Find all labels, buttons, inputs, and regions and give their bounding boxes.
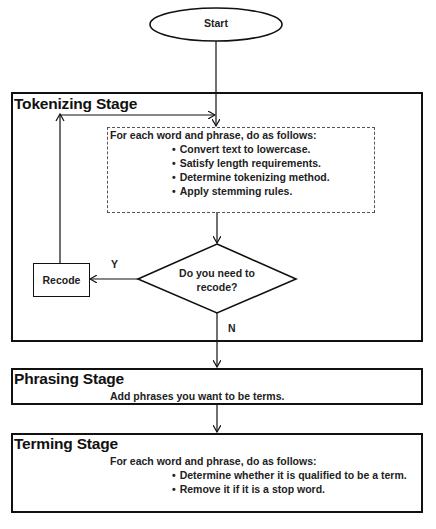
tokenizing-step: Determine tokenizing method.: [172, 170, 330, 184]
start-label: Start: [204, 17, 228, 29]
no-label: N: [228, 322, 236, 334]
decision-line-2: recode?: [167, 280, 267, 294]
tokenizing-steps-list: Convert text to lowercase. Satisfy lengt…: [172, 142, 330, 198]
decision-text: Do you need to recode?: [167, 266, 267, 294]
tokenizing-step: Convert text to lowercase.: [172, 142, 330, 156]
tokenizing-step: Apply stemming rules.: [172, 184, 330, 198]
recode-box: Recode: [33, 263, 90, 297]
terming-step: Determine whether it is qualified to be …: [172, 468, 407, 482]
yes-label: Y: [111, 258, 118, 270]
phrasing-stage-text: Add phrases you want to be terms.: [110, 390, 284, 402]
terming-step: Remove it if it is a stop word.: [172, 482, 407, 496]
start-terminal: Start: [150, 17, 282, 29]
tokenizing-step: Satisfy length requirements.: [172, 156, 330, 170]
recode-label: Recode: [43, 274, 81, 286]
tokenizing-intro: For each word and phrase, do as follows:: [110, 129, 317, 141]
terming-stage-title: Terming Stage: [14, 435, 118, 453]
tokenizing-stage-title: Tokenizing Stage: [14, 95, 137, 113]
phrasing-stage-title: Phrasing Stage: [14, 370, 124, 388]
terming-intro: For each word and phrase, do as follows:: [110, 455, 317, 467]
terming-steps-list: Determine whether it is qualified to be …: [172, 468, 407, 496]
decision-line-1: Do you need to: [167, 266, 267, 280]
